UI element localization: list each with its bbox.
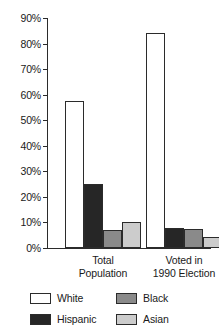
y-tick-mark bbox=[43, 95, 48, 96]
y-tick-mark bbox=[43, 69, 48, 70]
bar-white-group2 bbox=[146, 33, 165, 248]
y-tick-mark bbox=[43, 120, 48, 121]
y-tick-label: 90% bbox=[21, 13, 41, 24]
legend-label-asian: Asian bbox=[143, 314, 169, 325]
bar-asian-group1 bbox=[122, 222, 141, 248]
legend-label-hispanic: Hispanic bbox=[57, 314, 96, 325]
y-tick-mark bbox=[43, 18, 48, 19]
bar-white-group1 bbox=[65, 101, 84, 248]
chart-legend: WhiteBlackHispanicAsian bbox=[30, 288, 210, 330]
legend-label-black: Black bbox=[143, 293, 168, 304]
legend-item-white: White bbox=[30, 293, 116, 304]
legend-item-hispanic: Hispanic bbox=[30, 314, 116, 325]
y-tick-label: 30% bbox=[21, 166, 41, 177]
y-tick-label: 40% bbox=[21, 141, 41, 152]
legend-item-asian: Asian bbox=[116, 314, 210, 325]
y-axis-line bbox=[47, 18, 48, 248]
y-tick-label: 80% bbox=[21, 38, 41, 49]
y-tick-label: 60% bbox=[21, 89, 41, 100]
x-axis-line bbox=[47, 248, 211, 249]
y-tick-mark bbox=[43, 146, 48, 147]
legend-swatch-hispanic bbox=[30, 314, 51, 325]
y-tick-label: 10% bbox=[21, 217, 41, 228]
bar-black-group1 bbox=[103, 230, 122, 248]
bar-black-group2 bbox=[184, 229, 203, 248]
y-tick-mark bbox=[43, 171, 48, 172]
legend-label-white: White bbox=[57, 293, 83, 304]
y-tick-label: 70% bbox=[21, 64, 41, 75]
y-tick-mark bbox=[43, 222, 48, 223]
bar-hispanic-group1 bbox=[84, 184, 103, 248]
plot-area: 0%10%20%30%40%50%60%70%80%90% Total Popu… bbox=[47, 18, 211, 248]
legend-swatch-asian bbox=[116, 314, 137, 325]
bar-hispanic-group2 bbox=[165, 228, 184, 248]
y-tick-mark bbox=[43, 248, 48, 249]
bar-chart: 0%10%20%30%40%50%60%70%80%90% Total Popu… bbox=[0, 0, 219, 332]
legend-swatch-black bbox=[116, 293, 137, 304]
group-label-2: Voted in 1990 Election bbox=[139, 254, 219, 279]
group-label-1: Total Population bbox=[58, 254, 148, 279]
y-tick-label: 20% bbox=[21, 192, 41, 203]
legend-item-black: Black bbox=[116, 293, 210, 304]
y-tick-mark bbox=[43, 197, 48, 198]
y-tick-label: 50% bbox=[21, 115, 41, 126]
legend-swatch-white bbox=[30, 293, 51, 304]
y-tick-mark bbox=[43, 44, 48, 45]
bar-asian-group2 bbox=[203, 237, 219, 249]
y-tick-label: 0% bbox=[26, 243, 41, 254]
